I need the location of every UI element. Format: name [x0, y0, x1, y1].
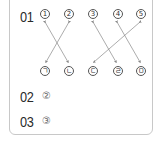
- match-line-5: [94, 22, 140, 62]
- match-line-4: [117, 22, 140, 62]
- match-line-3: [93, 22, 116, 62]
- question-number-03: 03: [20, 113, 33, 130]
- match-line-1: [45, 22, 68, 62]
- answer-03: ③: [42, 115, 51, 126]
- question-number-02: 02: [20, 88, 33, 105]
- match-line-2: [46, 22, 69, 62]
- answer-02: ②: [42, 90, 51, 101]
